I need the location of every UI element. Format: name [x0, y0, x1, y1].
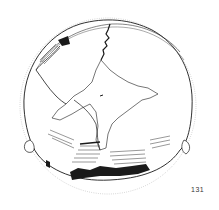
figure-number: 131 [191, 186, 204, 193]
right-lobe [182, 140, 190, 154]
skull-illustration [0, 0, 219, 210]
